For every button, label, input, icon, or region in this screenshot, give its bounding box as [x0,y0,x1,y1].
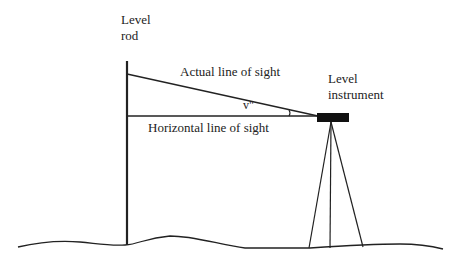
angle-arc [289,110,290,116]
tripod-leg-left [309,122,331,248]
level-rod-label: Level rod [121,12,151,44]
actual-line-of-sight [127,74,318,116]
level-instrument-label: Level instrument [328,71,384,103]
label-line: instrument [328,87,384,103]
actual-sight-label: Actual line of sight [180,64,280,80]
label-line: Level [328,71,384,87]
level-instrument [317,113,349,122]
tripod-leg-right [331,122,363,247]
level-diagram [0,0,457,272]
label-line: Level [121,12,151,28]
angle-label: v" [243,97,254,113]
horizontal-sight-label: Horizontal line of sight [148,120,269,136]
ground-line [18,236,443,249]
label-line: rod [121,28,151,44]
tripod-leg-center [330,122,331,248]
